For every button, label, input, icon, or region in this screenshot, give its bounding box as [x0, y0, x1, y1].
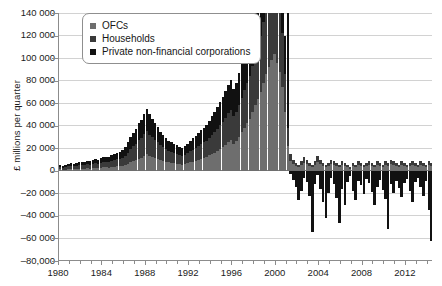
x-minor-tick — [91, 261, 92, 264]
chart-legend: OFCsHouseholdsPrivate non-financial corp… — [82, 13, 261, 64]
x-minor-tick — [123, 261, 124, 264]
legend-item[interactable]: Private non-financial corporations — [90, 45, 250, 58]
x-minor-tick — [80, 261, 81, 264]
x-axis: 198019841988199219962000200420082012 — [58, 261, 432, 286]
x-minor-tick — [112, 261, 113, 264]
gridline — [59, 193, 432, 194]
legend-label: Households — [102, 32, 155, 45]
x-minor-tick — [351, 261, 352, 264]
bar-segment — [430, 163, 432, 166]
y-tick-label: 120 000 — [3, 29, 55, 40]
x-minor-tick — [383, 261, 384, 264]
x-minor-tick — [253, 261, 254, 264]
legend-swatch-icon — [90, 23, 96, 29]
x-tick-mark — [362, 261, 363, 265]
x-tick-label: 1984 — [81, 267, 121, 278]
x-minor-tick — [286, 261, 287, 264]
bar-segment — [287, 128, 289, 146]
x-tick-mark — [318, 261, 319, 265]
y-axis-tick-labels: 140 000120 000100 00080 00060 00040 0002… — [0, 0, 55, 286]
x-tick-mark — [275, 261, 276, 265]
x-tick-label: 1992 — [168, 267, 208, 278]
y-tick-label: –60 000 — [3, 232, 55, 243]
legend-label: OFCs — [102, 19, 128, 32]
legend-item[interactable]: OFCs — [90, 19, 250, 32]
x-minor-tick — [372, 261, 373, 264]
x-tick-mark — [101, 261, 102, 265]
x-minor-tick — [242, 261, 243, 264]
x-minor-tick — [296, 261, 297, 264]
x-minor-tick — [340, 261, 341, 264]
legend-item[interactable]: Households — [90, 32, 250, 45]
x-tick-label: 1980 — [38, 267, 78, 278]
x-minor-tick — [427, 261, 428, 264]
bar-segment — [430, 171, 432, 241]
x-tick-mark — [58, 261, 59, 265]
x-minor-tick — [177, 261, 178, 264]
x-tick-label: 2008 — [342, 267, 382, 278]
legend-swatch-icon — [90, 49, 96, 55]
y-tick-label: 60 000 — [3, 97, 55, 108]
x-minor-tick — [134, 261, 135, 264]
x-minor-tick — [264, 261, 265, 264]
x-minor-tick — [329, 261, 330, 264]
x-tick-label: 2012 — [385, 267, 425, 278]
x-minor-tick — [307, 261, 308, 264]
x-tick-label: 1988 — [125, 267, 165, 278]
x-minor-tick — [416, 261, 417, 264]
bar-segment — [281, 13, 283, 33]
x-tick-label: 1996 — [211, 267, 251, 278]
chart-container: £ millions per quarter 140 000120 000100… — [0, 0, 442, 286]
x-tick-mark — [405, 261, 406, 265]
legend-swatch-icon — [90, 36, 96, 42]
x-minor-tick — [199, 261, 200, 264]
gridline — [59, 215, 432, 216]
y-tick-label: –20 000 — [3, 187, 55, 198]
x-tick-mark — [231, 261, 232, 265]
y-tick-label: 80 000 — [3, 74, 55, 85]
gridline — [59, 238, 432, 239]
y-tick-label: –80,000 — [3, 255, 55, 266]
y-tick-label: 40 000 — [3, 119, 55, 130]
x-minor-tick — [166, 261, 167, 264]
x-minor-tick — [221, 261, 222, 264]
y-tick-label: 100 000 — [3, 52, 55, 63]
x-tick-label: 2004 — [298, 267, 338, 278]
x-tick-label: 2000 — [255, 267, 295, 278]
x-tick-mark — [188, 261, 189, 265]
x-minor-tick — [156, 261, 157, 264]
x-minor-tick — [394, 261, 395, 264]
x-tick-mark — [145, 261, 146, 265]
legend-label: Private non-financial corporations — [102, 45, 250, 58]
bar-segment — [287, 13, 289, 128]
y-tick-label: 0 — [3, 164, 55, 175]
x-minor-tick — [69, 261, 70, 264]
y-tick-label: –40 000 — [3, 209, 55, 220]
y-tick-label: 140 000 — [3, 7, 55, 18]
y-tick-label: 20 000 — [3, 142, 55, 153]
x-minor-tick — [210, 261, 211, 264]
